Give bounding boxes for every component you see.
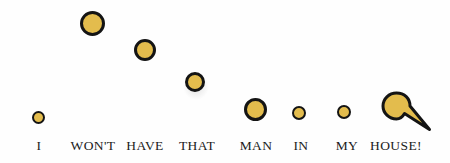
- word-label-row: I WON'T HAVE THAT MAN IN MY HOUSE!: [0, 136, 450, 158]
- pitch-contour-diagram: I WON'T HAVE THAT MAN IN MY HOUSE!: [0, 0, 450, 163]
- word-label-that: THAT: [179, 136, 215, 156]
- word-label-house: HOUSE!: [370, 136, 422, 156]
- pitch-dot-i: [32, 111, 45, 124]
- word-label-in: IN: [293, 136, 308, 156]
- word-label-my: MY: [336, 136, 359, 156]
- pitch-dot-have: [134, 39, 156, 61]
- pitch-dot-my: [337, 105, 351, 119]
- pitch-dot-house-falling-tail: [374, 88, 436, 134]
- pitch-dot-wont: [80, 11, 105, 36]
- word-label-man: MAN: [240, 136, 273, 156]
- pitch-dot-that: [185, 72, 205, 92]
- word-label-wont: WON'T: [71, 136, 116, 156]
- pitch-dot-in: [292, 106, 306, 120]
- pitch-dot-man: [244, 98, 267, 121]
- word-label-i: I: [37, 136, 42, 156]
- word-label-have: HAVE: [126, 136, 163, 156]
